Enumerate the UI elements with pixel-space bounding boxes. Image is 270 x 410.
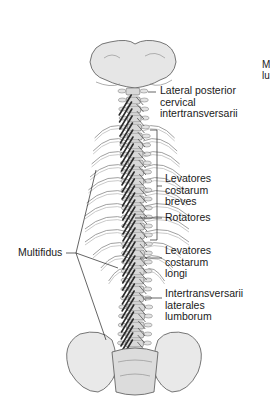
spine-illustration <box>0 0 270 410</box>
transverse-process <box>141 125 149 129</box>
label-intertransversarii-laterales-lumborum: Intertransversarii laterales lumborum <box>165 288 243 323</box>
leader-multifidus-upper <box>76 170 96 253</box>
transverse-process <box>144 224 152 228</box>
transverse-process <box>140 98 148 102</box>
transverse-process <box>144 251 152 255</box>
transverse-process <box>143 143 151 147</box>
transverse-process <box>144 188 152 192</box>
label-line: M <box>262 59 270 70</box>
transverse-process <box>144 323 152 327</box>
label-line: Multifidus <box>18 247 62 259</box>
label-line: Levatores <box>165 173 211 185</box>
transverse-process <box>143 161 151 165</box>
label-levatores-costarum-breves: Levatores costarum breves <box>165 173 211 208</box>
transverse-process <box>118 89 126 93</box>
label-line: Intertransversarii <box>165 288 243 300</box>
label-line: lu <box>262 70 270 81</box>
cropped-edge-label: M lu <box>262 59 270 81</box>
transverse-process <box>140 89 148 93</box>
vertebra <box>126 88 140 95</box>
transverse-process <box>145 305 153 309</box>
label-line: lumborum <box>165 311 243 323</box>
label-line: breves <box>165 196 211 208</box>
transverse-process <box>118 98 126 102</box>
label-line: Levatores <box>165 245 211 257</box>
transverse-process <box>144 260 152 264</box>
transverse-process <box>144 287 152 291</box>
label-levatores-costarum-longi: Levatores costarum longi <box>165 245 211 280</box>
transverse-process <box>142 134 150 138</box>
bracket-levatores-breves <box>150 130 157 240</box>
label-line: longi <box>165 268 211 280</box>
label-multifidus: Multifidus <box>18 247 62 259</box>
label-line: Rotatores <box>165 212 211 224</box>
leader-multifidus-middle <box>76 253 118 268</box>
skull-base <box>90 40 176 88</box>
label-line: Lateral posterior <box>160 85 238 97</box>
transverse-process <box>144 197 152 201</box>
label-rotatores: Rotatores <box>165 212 211 224</box>
label-line: intertransversarii <box>160 108 238 120</box>
label-lateral-posterior-cervical-intertransversarii: Lateral posterior cervical intertransver… <box>160 85 238 120</box>
leader-multifidus-lower <box>76 253 106 340</box>
transverse-process <box>141 116 149 120</box>
